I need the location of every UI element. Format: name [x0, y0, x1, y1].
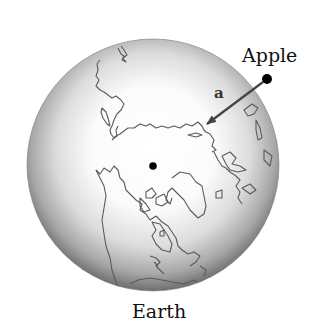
acceleration-label: a: [214, 86, 224, 101]
apple-dot: [262, 74, 272, 84]
gravity-diagram: Apple a Earth: [0, 0, 329, 324]
earth-label: Earth: [132, 302, 186, 321]
apple-label: Apple: [242, 46, 297, 65]
earth-center-dot: [149, 162, 157, 170]
